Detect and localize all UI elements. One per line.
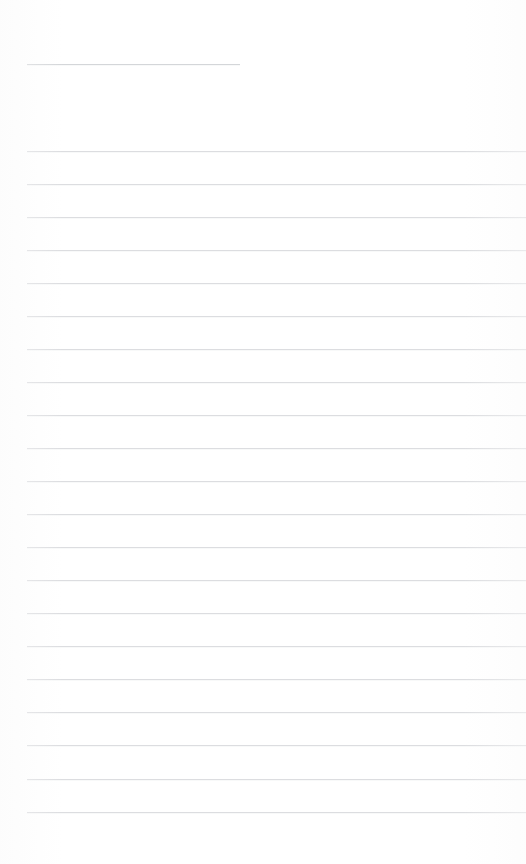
- writing-row[interactable]: [27, 713, 526, 745]
- writing-row[interactable]: [27, 251, 526, 283]
- page-canvas: [0, 0, 526, 864]
- writing-row[interactable]: [27, 284, 526, 316]
- writing-row[interactable]: [27, 747, 526, 779]
- writing-row[interactable]: [27, 185, 526, 217]
- writing-row[interactable]: [27, 218, 526, 250]
- writing-row[interactable]: [27, 680, 526, 712]
- writing-row[interactable]: [27, 383, 526, 415]
- writing-row[interactable]: [27, 449, 526, 481]
- ruled-line: [27, 745, 526, 746]
- writing-row[interactable]: [27, 780, 526, 812]
- writing-row[interactable]: [27, 548, 526, 580]
- writing-row[interactable]: [27, 119, 526, 151]
- writing-row[interactable]: [27, 515, 526, 547]
- title-rule: [27, 64, 240, 65]
- writing-row[interactable]: [27, 581, 526, 613]
- writing-row[interactable]: [27, 416, 526, 448]
- writing-row[interactable]: [27, 152, 526, 184]
- writing-row[interactable]: [27, 350, 526, 382]
- ruled-line: [27, 812, 526, 813]
- writing-row[interactable]: [27, 647, 526, 679]
- writing-row[interactable]: [27, 614, 526, 646]
- writing-row[interactable]: [27, 482, 526, 514]
- writing-row[interactable]: [27, 317, 526, 349]
